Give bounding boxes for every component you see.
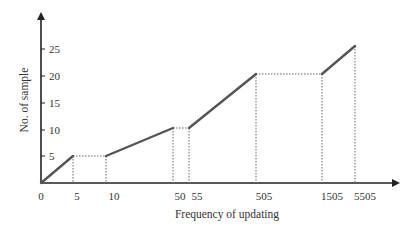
y-tick-label: 25 — [49, 43, 61, 55]
x-tick-label: 55 — [192, 190, 204, 202]
x-tick-label: 5505 — [354, 190, 377, 202]
data-line — [41, 46, 355, 183]
x-tick-label: 10 — [109, 190, 121, 202]
x-tick-label: 505 — [256, 190, 273, 202]
x-tick-label: 50 — [175, 190, 187, 202]
y-tick-label: 20 — [49, 70, 61, 82]
dotted-guides — [73, 46, 355, 183]
x-axis-title: Frequency of updating — [175, 208, 279, 221]
chart: 5 10 15 20 25 No. of sample 0 5 10 50 55… — [0, 0, 412, 231]
y-tick-label: 10 — [49, 124, 61, 136]
x-tick-label: 1505 — [321, 190, 344, 202]
y-tick-label: 5 — [49, 150, 55, 162]
y-tick-label: 15 — [49, 97, 61, 109]
y-axis-title: No. of sample — [18, 68, 31, 133]
x-tick-label: 0 — [38, 190, 44, 202]
x-tick-label: 5 — [74, 190, 80, 202]
